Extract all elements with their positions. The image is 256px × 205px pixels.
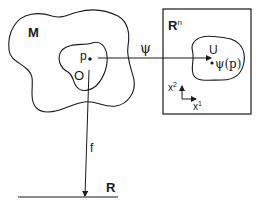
real-line-label: R — [106, 180, 116, 195]
function-label: f — [90, 141, 94, 155]
image-set-label: U — [209, 43, 218, 57]
manifold-chart-diagram: M O p ψ f R Rn U ψ(p) x2 x1 — [0, 0, 256, 205]
point-label: p — [80, 49, 87, 63]
open-set-label: O — [74, 68, 84, 83]
chart-map-label: ψ — [140, 40, 151, 56]
axis-x2-label: x2 — [168, 81, 177, 93]
image-point-dot — [210, 61, 213, 64]
axis-x1-label: x1 — [193, 100, 202, 112]
manifold-label: M — [28, 25, 39, 40]
image-point-label: ψ(p) — [215, 57, 241, 71]
euclidean-space-label: Rn — [168, 18, 182, 33]
point-p-dot — [88, 57, 92, 61]
function-arrow — [85, 70, 89, 196]
